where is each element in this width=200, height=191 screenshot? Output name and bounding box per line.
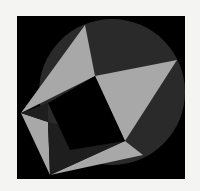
geometric-figure [0, 0, 200, 191]
